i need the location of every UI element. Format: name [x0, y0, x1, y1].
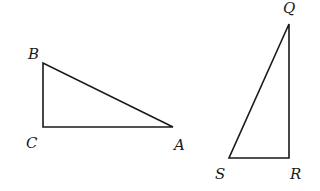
triangle-qrs: Q R S — [215, 0, 301, 183]
vertex-label-c: C — [26, 134, 38, 152]
geometry-diagram: B C A Q R S — [0, 0, 320, 191]
vertex-label-s: S — [215, 165, 225, 183]
triangle-abc-outline — [43, 63, 173, 127]
triangle-qrs-outline — [229, 24, 289, 158]
vertex-label-q: Q — [283, 0, 295, 17]
vertex-label-a: A — [172, 136, 185, 154]
vertex-label-r: R — [289, 165, 301, 183]
vertex-label-b: B — [27, 45, 39, 63]
triangle-abc: B C A — [26, 45, 185, 154]
